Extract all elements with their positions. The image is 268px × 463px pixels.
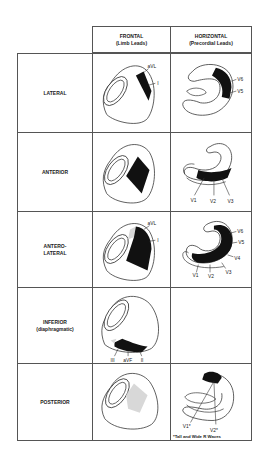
heart-horizontal-icon: V6 V5 V4 V3 V2 V1 bbox=[171, 212, 251, 287]
lead-label: V5 bbox=[237, 89, 243, 94]
lead-label: V2 bbox=[210, 199, 216, 204]
horizontal-heart-antero-lateral: V6 V5 V4 V3 V2 V1 bbox=[170, 211, 252, 288]
lead-label: V1* bbox=[183, 424, 191, 429]
heart-horizontal-icon: V1 V2 V3 bbox=[171, 133, 251, 211]
lead-label: V3 bbox=[228, 199, 234, 204]
lead-label: aVL bbox=[148, 64, 157, 69]
row-anterior: ANTERIOR V1 V2 V3 bbox=[17, 132, 252, 212]
header-frontal: FRONTAL (Limb Leads) bbox=[92, 26, 171, 53]
lead-label: V6 bbox=[237, 77, 243, 82]
row-label-lateral: LATERAL bbox=[17, 53, 93, 133]
lead-label: V2 bbox=[208, 274, 214, 279]
header-horizontal: HORIZONTAL (Precordial Leads) bbox=[170, 26, 252, 53]
lead-label: V2* bbox=[210, 428, 218, 433]
lead-label: V1 bbox=[191, 198, 197, 203]
lead-label: V5 bbox=[238, 240, 244, 245]
row-sublabel-text: LATERAL bbox=[44, 250, 67, 257]
row-label-antero-lateral: ANTERO- LATERAL bbox=[17, 211, 93, 288]
frontal-heart-posterior bbox=[92, 363, 171, 441]
row-posterior: POSTERIOR V1* V2* *Tall and Wide R Waves bbox=[17, 363, 252, 441]
row-sublabel-text: (diaphragmatic) bbox=[36, 326, 74, 333]
row-label-anterior: ANTERIOR bbox=[17, 132, 93, 212]
horizontal-heart-anterior: V1 V2 V3 bbox=[170, 132, 252, 212]
heart-frontal-icon: aVL I bbox=[93, 212, 170, 287]
heart-frontal-icon: aVL I bbox=[93, 54, 170, 132]
heart-frontal-icon bbox=[93, 133, 170, 211]
horizontal-cell-inferior-empty bbox=[170, 287, 252, 364]
row-inferior: INFERIOR (diaphragmatic) III aVF II bbox=[17, 287, 252, 364]
heart-horizontal-icon: V1* V2* bbox=[171, 364, 251, 440]
frontal-heart-lateral: aVL I bbox=[92, 53, 171, 133]
frontal-heart-inferior: III aVF II bbox=[92, 287, 171, 364]
row-antero-lateral: ANTERO- LATERAL aVL I bbox=[17, 211, 252, 288]
row-label-posterior: POSTERIOR bbox=[17, 363, 93, 441]
heart-frontal-icon bbox=[93, 364, 170, 440]
row-label-text: LATERAL bbox=[44, 90, 67, 97]
heart-frontal-icon: III aVF II bbox=[93, 288, 170, 363]
infarct-location-table: FRONTAL (Limb Leads) HORIZONTAL (Precord… bbox=[17, 26, 252, 441]
horizontal-heart-posterior: V1* V2* *Tall and Wide R Waves bbox=[170, 363, 252, 441]
lead-label: I bbox=[157, 238, 158, 243]
row-label-text: POSTERIOR bbox=[40, 399, 69, 406]
lead-label: V6 bbox=[237, 229, 243, 234]
frontal-heart-antero-lateral: aVL I bbox=[92, 211, 171, 288]
row-label-text: ANTERIOR bbox=[42, 169, 68, 176]
row-label-inferior: INFERIOR (diaphragmatic) bbox=[17, 287, 93, 364]
header-frontal-subtitle: (Limb Leads) bbox=[116, 40, 147, 47]
row-lateral: LATERAL aVL I V6 V5 bbox=[17, 53, 252, 133]
lead-label: I bbox=[157, 81, 158, 86]
heart-horizontal-icon: V6 V5 bbox=[171, 54, 251, 132]
frontal-heart-anterior bbox=[92, 132, 171, 212]
horizontal-heart-lateral: V6 V5 bbox=[170, 53, 252, 133]
lead-label: V3 bbox=[226, 270, 232, 275]
header-horizontal-subtitle: (Precordial Leads) bbox=[189, 40, 233, 47]
lead-label: V1 bbox=[192, 273, 198, 278]
lead-label: aVL bbox=[148, 221, 157, 226]
lead-label: V4 bbox=[234, 256, 240, 261]
footnote: *Tall and Wide R Waves bbox=[173, 434, 221, 439]
